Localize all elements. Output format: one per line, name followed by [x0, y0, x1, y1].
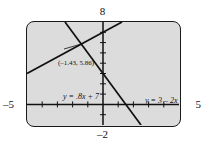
y-axis-min-label: –2 — [0, 129, 205, 140]
intersection-point-label: (–1.43, 5.86) — [58, 60, 94, 67]
x-axis-min-label: –5 — [3, 99, 14, 110]
x-axis-max-label: 5 — [196, 99, 202, 110]
equation-label-steep-line: y = 3 – 2x — [145, 97, 178, 105]
plot-area — [27, 22, 179, 125]
y-axis-max-label: 8 — [0, 6, 205, 17]
equation-label-shallow-line: y = .8x + 7 — [63, 93, 99, 101]
calculator-screen: (–1.43, 5.86) y = .8x + 7 y = 3 – 2x — [26, 21, 181, 127]
graph-figure: 8 –2 –5 5 — [0, 0, 205, 146]
